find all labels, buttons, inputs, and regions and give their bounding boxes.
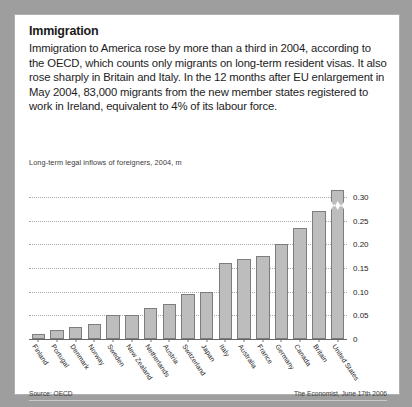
category-slot: Britain — [310, 342, 329, 388]
bar-denmark — [69, 327, 82, 339]
category-slot: Australia — [235, 342, 254, 388]
y-axis-tick-label: 0.05 — [353, 311, 369, 320]
category-slot: Portugal — [48, 342, 67, 388]
x-axis-label: United States — [331, 343, 360, 382]
bar-slot — [197, 197, 216, 339]
bar-australia — [237, 259, 250, 339]
article-card: Immigration Immigration to America rose … — [14, 14, 400, 395]
source-label: Source: OECD — [29, 390, 73, 397]
chart-y-axis: 00.050.100.150.200.250.30 — [353, 197, 397, 340]
category-slot: Austria — [160, 342, 179, 388]
category-slot: New Zealand — [123, 342, 142, 388]
bar-netherlands — [144, 308, 157, 339]
bar-slot — [179, 197, 198, 339]
category-slot: Sweden — [104, 342, 123, 388]
y-axis-tick-label: 0.15 — [353, 264, 369, 273]
chart-baseline — [29, 339, 347, 340]
bar-slot — [328, 197, 347, 339]
bar-slot — [104, 197, 123, 339]
category-slot: United States — [328, 342, 347, 388]
bar-italy — [219, 263, 232, 339]
chart-plot-area — [29, 197, 347, 340]
category-slot: Denmark — [66, 342, 85, 388]
axis-break-icon — [331, 201, 344, 210]
bar-slot — [29, 197, 48, 339]
bar-britain — [312, 211, 325, 339]
article-paragraph: Immigration to America rose by more than… — [29, 41, 387, 114]
category-slot: France — [253, 342, 272, 388]
chart-x-axis: FinlandPortugalDenmarkNorwaySwedenNew Ze… — [29, 342, 347, 388]
credit-label: The Economist, June 17th 2006 — [294, 390, 387, 397]
category-slot: Japan — [197, 342, 216, 388]
chart-title: Long-term legal inflows of foreigners, 2… — [29, 158, 182, 167]
y-axis-tick-label: 0 — [353, 335, 357, 344]
bar-slot — [85, 197, 104, 339]
bar-slot — [48, 197, 67, 339]
x-axis-label: Italy — [219, 343, 232, 358]
bar-new-zealand — [125, 315, 138, 339]
category-slot: Switzerland — [179, 342, 198, 388]
bar-canada — [293, 228, 306, 339]
article-body: Immigration Immigration to America rose … — [29, 24, 387, 114]
bar-austria — [163, 304, 176, 340]
y-axis-tick-label: 0.30 — [353, 193, 369, 202]
bar-slot — [291, 197, 310, 339]
bar-slot — [66, 197, 85, 339]
bar-germany — [275, 244, 288, 339]
bar-slot — [141, 197, 160, 339]
bar-slot — [310, 197, 329, 339]
y-axis-tick-label: 0.25 — [353, 216, 369, 225]
footer-divider — [29, 400, 387, 401]
chart-footer: Source: OECD The Economist, June 17th 20… — [29, 390, 387, 402]
x-axis-label: Britain — [312, 343, 329, 363]
category-slot: Germany — [272, 342, 291, 388]
category-slot: Canada — [291, 342, 310, 388]
bar-sweden — [106, 315, 119, 339]
y-axis-tick-label: 0.20 — [353, 240, 369, 249]
category-slot: Italy — [216, 342, 235, 388]
page-title: Immigration — [29, 24, 387, 38]
category-slot: Finland — [29, 342, 48, 388]
category-slot: Norway — [85, 342, 104, 388]
chart-bars — [29, 197, 347, 339]
bar-france — [256, 256, 269, 339]
bar-japan — [200, 292, 213, 339]
bar-portugal — [50, 330, 63, 339]
bar-united-states — [331, 190, 344, 339]
bar-slot — [160, 197, 179, 339]
bar-slot — [123, 197, 142, 339]
y-axis-tick-label: 0.10 — [353, 287, 369, 296]
bar-slot — [235, 197, 254, 339]
bar-slot — [272, 197, 291, 339]
x-axis-label: Japan — [200, 343, 216, 363]
bar-slot — [253, 197, 272, 339]
category-slot: Netherlands — [141, 342, 160, 388]
bar-norway — [88, 324, 101, 339]
bar-slot — [216, 197, 235, 339]
bar-switzerland — [181, 294, 194, 339]
